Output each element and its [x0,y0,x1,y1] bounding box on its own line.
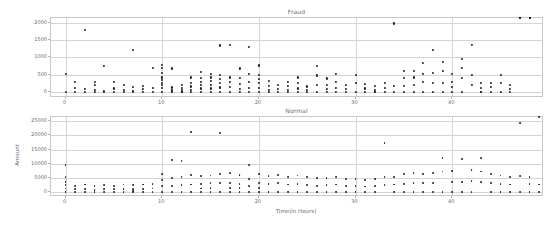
scatter-point [74,185,76,187]
scatter-point [374,185,376,187]
scatter-point [229,191,231,193]
scatter-point [181,176,183,178]
scatter-point [258,187,260,189]
scatter-point [229,172,231,174]
scatter-point [84,188,86,190]
y-tick-label: 10000 [31,160,47,166]
scatter-point [219,182,221,184]
scatter-point [345,178,347,180]
scatter-point [538,116,540,118]
scatter-point [316,177,318,179]
scatter-point [84,184,86,186]
scatter-point [65,181,67,183]
scatter-point [471,169,473,171]
scatter-point [200,183,202,185]
scatter-point [519,191,521,193]
scatter-point [345,191,347,193]
scatter-point [355,179,357,181]
y-tick-label: 0 [44,188,47,194]
scatter-point [123,188,125,190]
scatter-point [461,191,463,193]
scatter-point [239,191,241,193]
scatter-point [229,187,231,189]
scatter-point [103,188,105,190]
scatter-point [432,172,434,174]
x-tick-mark [355,196,356,198]
scatter-point [374,178,376,180]
scatter-point [171,177,173,179]
x-tick-mark [161,196,162,198]
gridline-horizontal [51,135,542,136]
scatter-point [190,131,192,133]
gridline-horizontal [51,164,542,165]
scatter-point [509,184,511,186]
scatter-point [287,176,289,178]
scatter-point [277,174,279,176]
y-axis-label: Amount [14,144,20,166]
x-tick-mark [258,196,259,198]
scatter-point [297,183,299,185]
scatter-point [248,178,250,180]
scatter-point [210,187,212,189]
scatter-point [239,183,241,185]
scatter-point [490,191,492,193]
scatter-point [161,179,163,181]
scatter-point [248,164,250,166]
scatter-point [248,191,250,193]
scatter-point [355,191,357,193]
chart-title-normal: Normal [50,107,543,114]
x-tick-label: 0 [63,198,66,204]
scatter-point [500,183,502,185]
scatter-point [258,182,260,184]
scatter-point [219,191,221,193]
scatter-point [181,184,183,186]
scatter-point [529,176,531,178]
scatter-point [509,191,511,193]
scatter-point [239,174,241,176]
scatter-point [65,176,67,178]
scatter-point [355,185,357,187]
scatter-point [442,171,444,173]
scatter-point [364,179,366,181]
scatter-point [480,157,482,159]
scatter-point [422,191,424,193]
scatter-point [306,184,308,186]
scatter-point [239,187,241,189]
scatter-point [74,191,76,193]
scatter-point [181,160,183,162]
scatter-point [364,186,366,188]
scatter-point [152,191,154,193]
scatter-point [393,184,395,186]
scatter-point [403,183,405,185]
scatter-point [374,191,376,193]
scatter-point [103,184,105,186]
scatter-point [171,159,173,161]
scatter-point [509,176,511,178]
scatter-point [471,180,473,182]
scatter-point [210,175,212,177]
scatter-point [287,191,289,193]
scatter-point [326,177,328,179]
scatter-point [113,191,115,193]
scatter-point [171,191,173,193]
scatter-point [200,188,202,190]
scatter-point [451,191,453,193]
gridline-vertical [356,117,357,195]
scatter-point [190,191,192,193]
scatter-point [200,191,202,193]
scatter-point [480,171,482,173]
scatter-point [490,173,492,175]
scatter-point [471,191,473,193]
scatter-point [190,184,192,186]
scatter-point [181,191,183,193]
scatter-point [335,184,337,186]
scatter-point [161,191,163,193]
scatter-point [103,191,105,193]
gridline-vertical [162,117,163,195]
scatter-point [432,182,434,184]
scatter-point [451,170,453,172]
y-tick-mark [48,149,50,150]
x-tick-mark [65,196,66,198]
scatter-point [335,191,337,193]
scatter-point [529,191,531,193]
